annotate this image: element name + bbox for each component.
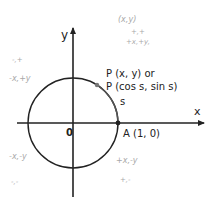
annotation-top-right-3: +x,+y, xyxy=(126,38,150,46)
point-p-label-line2: P (cos s, sin s) xyxy=(106,81,177,92)
diagram-svg: y x 0 A (1, 0) P (x, y) or P (cos s, sin… xyxy=(0,0,212,211)
point-p xyxy=(95,83,99,87)
unit-circle-diagram: y x 0 A (1, 0) P (x, y) or P (cos s, sin… xyxy=(0,0,212,211)
y-axis-label: y xyxy=(61,28,68,42)
annotation-bottom-right-2: +,- xyxy=(120,176,131,184)
annotation-bottom-left-1: -x,-y xyxy=(9,152,27,161)
annotation-top-left-2: -x,+y xyxy=(9,74,31,83)
point-a xyxy=(116,121,121,126)
origin-label: 0 xyxy=(66,127,73,138)
x-axis-label: x xyxy=(194,105,201,118)
annotation-top-right-2: +,+ xyxy=(131,28,145,36)
arc-s-label: s xyxy=(120,96,125,107)
annotation-bottom-left-2: -,- xyxy=(11,178,19,186)
point-a-label: A (1, 0) xyxy=(123,128,160,139)
annotation-top-left-1: -,+ xyxy=(12,56,23,64)
point-p-label-line1: P (x, y) or xyxy=(106,68,156,79)
annotation-top-right-1: (x,y) xyxy=(118,15,136,24)
annotation-bottom-right-1: +x,-y xyxy=(116,156,138,165)
